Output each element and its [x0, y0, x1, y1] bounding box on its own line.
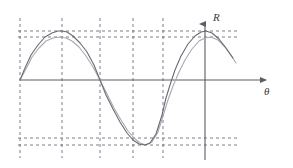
theta-axis-label: θ [264, 85, 270, 97]
horizontal-gridlines [18, 31, 237, 145]
vertical-gridlines [20, 18, 163, 158]
figure-container: R θ [0, 0, 293, 168]
r-axis-label: R [212, 11, 220, 23]
curve-light [20, 37, 236, 145]
sinusoid-plot: R θ [0, 0, 293, 168]
